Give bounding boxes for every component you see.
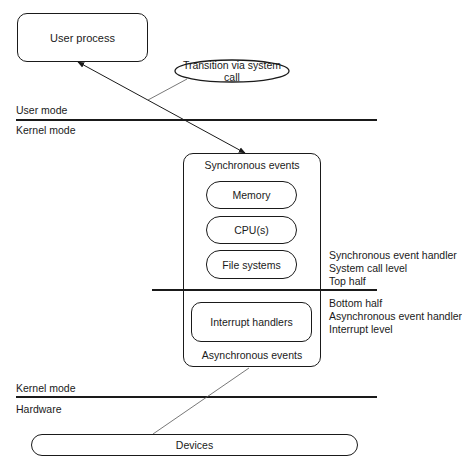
file-systems-label: File systems: [222, 259, 280, 271]
interrupt-handlers-label: Interrupt handlers: [210, 316, 292, 328]
devices-leader: [153, 368, 249, 434]
top-half-labels: Synchronous event handler System call le…: [329, 249, 457, 288]
transition-text: Transition via system call: [175, 59, 289, 83]
top-half-label: Top half: [329, 275, 457, 288]
sync-handler-label: Synchronous event handler: [329, 249, 457, 262]
file-systems-pill: File systems: [206, 250, 297, 279]
interrupt-level-label: Interrupt level: [329, 323, 462, 336]
interrupt-handlers-box: Interrupt handlers: [191, 302, 312, 342]
system-call-level-label: System call level: [329, 262, 457, 275]
user-process-label: User process: [50, 32, 115, 44]
user-process-box: User process: [17, 13, 148, 62]
cpu-pill: CPU(s): [206, 216, 297, 244]
bottom-half-label: Bottom half: [329, 297, 462, 310]
user-mode-label: User mode: [16, 104, 67, 117]
transition-label: Transition via system call: [175, 62, 289, 80]
asynchronous-events-label: Asynchronous events: [183, 348, 321, 362]
synchronous-events-label: Synchronous events: [183, 158, 321, 172]
memory-pill: Memory: [206, 181, 297, 209]
kernel-mode-top-label: Kernel mode: [16, 124, 76, 137]
async-handler-label: Asynchronous event handler: [329, 310, 462, 323]
cpu-label: CPU(s): [234, 224, 268, 236]
bottom-half-labels: Bottom half Asynchronous event handler I…: [329, 297, 462, 336]
kernel-mode-bottom-label: Kernel mode: [16, 382, 76, 395]
devices-label: Devices: [176, 439, 213, 451]
memory-label: Memory: [233, 189, 271, 201]
devices-box: Devices: [31, 434, 358, 456]
hardware-label: Hardware: [16, 403, 62, 416]
